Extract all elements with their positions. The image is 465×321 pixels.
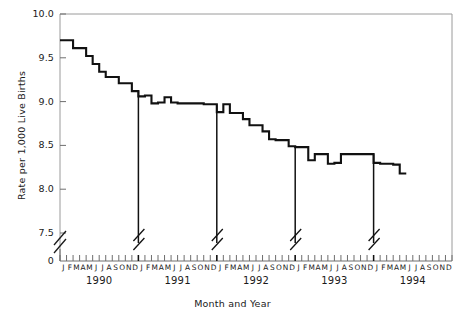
x-axis-title: Month and Year: [0, 298, 465, 309]
y-tick-label: 7.5: [20, 227, 54, 238]
x-year-label: 1993: [307, 275, 361, 286]
x-year-label: 1992: [229, 275, 283, 286]
x-year-label: 1994: [386, 275, 440, 286]
x-year-label: 1990: [72, 275, 126, 286]
y-tick-label: 9.5: [20, 52, 54, 63]
y-axis-title: Rate per 1,000 Live Births: [16, 71, 27, 200]
x-year-label: 1991: [151, 275, 205, 286]
chart-figure: 10.09.59.08.58.07.50 JFMAMJJASONDJFMAMJJ…: [0, 0, 465, 321]
plot-frame: [60, 14, 452, 261]
chart-canvas: [0, 0, 465, 321]
y-tick-label: 0: [20, 255, 54, 266]
data-line-infant-mortality: [60, 40, 406, 173]
x-month-label: D: [444, 263, 454, 272]
y-tick-label: 10.0: [20, 8, 54, 19]
